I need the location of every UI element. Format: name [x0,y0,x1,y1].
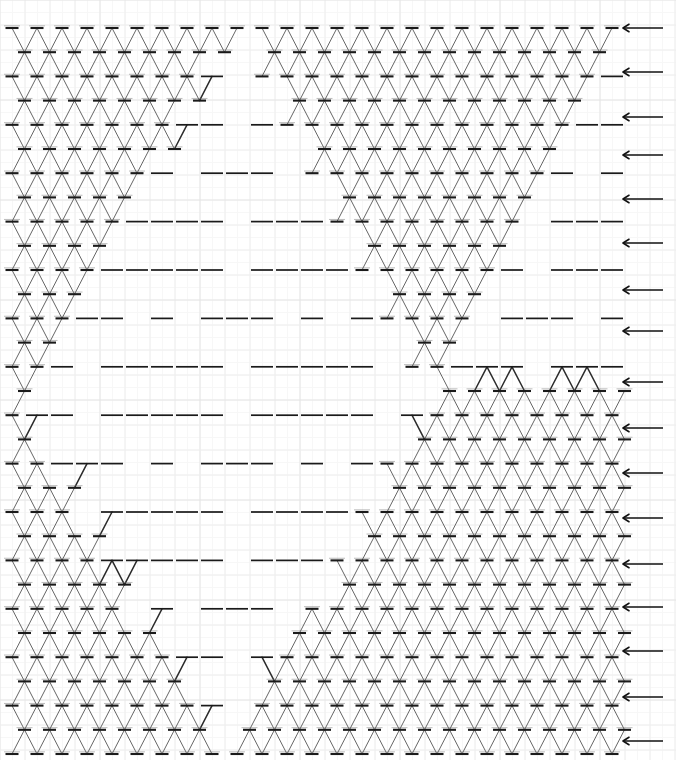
boundary-arrow [623,68,663,75]
boundary-arrow [623,195,663,202]
boundary-arrow [623,737,663,744]
boundary-arrow [623,514,663,521]
boundary-arrow [623,424,663,431]
boundary-arrow [623,286,663,293]
boundary-arrow [623,378,663,385]
boundary-arrow [623,113,663,120]
boundary-arrow [623,693,663,700]
boundary-arrow [623,239,663,246]
boundary-arrow [623,327,663,334]
boundary-arrows [623,24,663,744]
boundary-arrow [623,560,663,567]
diagram-canvas [0,0,676,760]
boundary-arrow [623,647,663,654]
boundary-arrow-group [0,0,676,760]
boundary-arrow [623,24,663,31]
boundary-arrow [623,603,663,610]
boundary-arrow [623,151,663,158]
boundary-arrow [623,469,663,476]
